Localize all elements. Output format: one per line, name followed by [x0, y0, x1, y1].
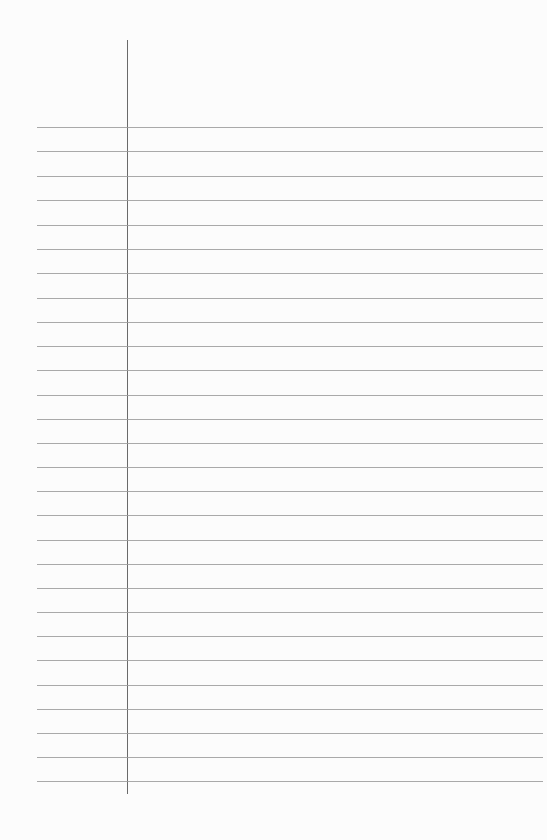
- ruled-line: [37, 588, 543, 589]
- ruled-line: [37, 346, 543, 347]
- ruled-line: [37, 322, 543, 323]
- ruled-line: [37, 443, 543, 444]
- ruled-line: [37, 127, 543, 128]
- ruled-line: [37, 685, 543, 686]
- ruled-line: [37, 709, 543, 710]
- ruled-line: [37, 370, 543, 371]
- ruled-line: [37, 491, 543, 492]
- ruled-line: [37, 200, 543, 201]
- ruled-line: [37, 467, 543, 468]
- ruled-line: [37, 733, 543, 734]
- ruled-line: [37, 176, 543, 177]
- ruled-line: [37, 660, 543, 661]
- margin-line: [127, 40, 128, 794]
- ruled-line: [37, 612, 543, 613]
- ruled-line: [37, 225, 543, 226]
- ruled-line: [37, 636, 543, 637]
- ruled-line: [37, 757, 543, 758]
- lined-paper-sheet: [0, 0, 547, 840]
- ruled-line: [37, 419, 543, 420]
- ruled-line: [37, 564, 543, 565]
- ruled-line: [37, 540, 543, 541]
- ruled-line: [37, 273, 543, 274]
- ruled-line: [37, 249, 543, 250]
- ruled-line: [37, 781, 543, 782]
- ruled-line: [37, 151, 543, 152]
- ruled-line: [37, 298, 543, 299]
- ruled-line: [37, 515, 543, 516]
- ruled-line: [37, 395, 543, 396]
